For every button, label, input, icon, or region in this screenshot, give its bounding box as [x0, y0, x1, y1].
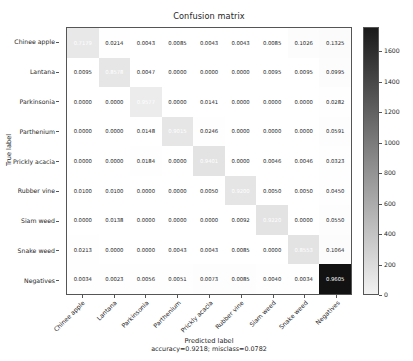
heatmap-axes: 0.71790.02140.00430.00850.00430.00430.00…: [66, 27, 352, 295]
page-title: Confusion matrix: [66, 11, 352, 21]
heatmap-cell-value: 0.0000: [231, 158, 249, 164]
heatmap-cell: 0.0000: [288, 87, 320, 117]
heatmap-cell: 0.0000: [67, 146, 99, 176]
x-tick-label: Snake weed: [277, 299, 308, 330]
colorbar-tick-label: 200: [384, 261, 396, 268]
colorbar-gradient: [363, 27, 379, 295]
heatmap-cell-value: 0.0000: [168, 217, 186, 223]
heatmap-cell-value: 0.0000: [200, 69, 218, 75]
heatmap-cell: 0.0085: [225, 264, 257, 294]
x-tick-label: Parkinsonia: [120, 299, 150, 329]
heatmap-cell-value: 0.9200: [231, 188, 249, 194]
heatmap-cell-value: 0.0073: [200, 276, 218, 282]
colorbar-tick-label: 400: [384, 230, 396, 237]
heatmap-cell: 0.0184: [130, 146, 162, 176]
heatmap-cell: 0.9220: [256, 205, 288, 235]
heatmap-cell-value: 0.0043: [231, 40, 249, 46]
heatmap-cell-value: 0.0000: [105, 128, 123, 134]
heatmap-cell-value: 0.0100: [74, 188, 92, 194]
heatmap-cell-value: 0.0085: [168, 40, 186, 46]
heatmap-cell: 0.7179: [67, 28, 99, 58]
heatmap-cell-value: 0.7179: [74, 40, 92, 46]
heatmap-cell: 0.0214: [99, 28, 131, 58]
heatmap-cell: 0.0092: [225, 205, 257, 235]
heatmap-cell-value: 0.1064: [326, 247, 344, 253]
heatmap-cell: 0.0051: [162, 264, 194, 294]
heatmap-cell-value: 0.9220: [263, 217, 281, 223]
heatmap-cell-value: 0.0043: [168, 247, 186, 253]
heatmap-cell: 0.0040: [256, 264, 288, 294]
heatmap-cell: 0.0095: [67, 58, 99, 88]
heatmap-cell-value: 0.0043: [200, 40, 218, 46]
colorbar-tick-mark: [379, 295, 382, 296]
heatmap-cell-value: 0.0000: [168, 69, 186, 75]
heatmap-cell-value: 0.8553: [295, 247, 313, 253]
heatmap-cell-value: 0.0040: [263, 276, 281, 282]
heatmap-cell: 0.0000: [67, 205, 99, 235]
x-tick-label: Siam weed: [248, 299, 277, 328]
heatmap-cell: 0.0095: [256, 58, 288, 88]
heatmap-cell-value: 0.0000: [74, 217, 92, 223]
heatmap-cell-value: 0.0056: [137, 276, 155, 282]
heatmap-cell: 0.0046: [256, 146, 288, 176]
heatmap-cell: 0.0023: [99, 264, 131, 294]
heatmap-cell-value: 0.0000: [263, 128, 281, 134]
colorbar-tick-label: 1200: [384, 109, 400, 116]
heatmap-cell-value: 0.0550: [326, 217, 344, 223]
heatmap-cell: 0.0000: [99, 117, 131, 147]
heatmap-cell-value: 0.0000: [295, 217, 313, 223]
x-tick-mark: [114, 295, 115, 298]
heatmap-cell-value: 0.0213: [74, 247, 92, 253]
y-tick-mark: [56, 191, 59, 192]
heatmap-cell-value: 0.1026: [295, 40, 313, 46]
heatmap-cell: 0.9577: [130, 87, 162, 117]
x-tick-mark: [145, 295, 146, 298]
heatmap-cell-value: 0.0034: [295, 276, 313, 282]
heatmap-cell-value: 0.0000: [137, 217, 155, 223]
heatmap-cell: 0.0050: [256, 176, 288, 206]
heatmap-cell: 0.0000: [225, 146, 257, 176]
heatmap-cell: 0.0085: [256, 28, 288, 58]
x-tick-mark: [177, 295, 178, 298]
heatmap-cell-value: 0.0085: [263, 40, 281, 46]
heatmap-cell: 0.0000: [130, 205, 162, 235]
heatmap-cell: 0.0043: [193, 28, 225, 58]
x-tick-mark: [336, 295, 337, 298]
heatmap-cell-value: 0.9015: [168, 128, 186, 134]
colorbar-tick-mark: [379, 51, 382, 52]
y-tick-mark: [56, 131, 59, 132]
x-tick-label: Rubber vine: [214, 299, 245, 330]
heatmap-cell: 0.0000: [162, 58, 194, 88]
heatmap-cell-value: 0.0000: [105, 158, 123, 164]
heatmap-cell-value: 0.0000: [231, 69, 249, 75]
heatmap-cell-value: 0.0085: [231, 276, 249, 282]
heatmap-cell: 0.0050: [193, 176, 225, 206]
heatmap-cell: 0.8553: [288, 235, 320, 265]
heatmap-cell-value: 0.0138: [105, 217, 123, 223]
heatmap-cell: 0.0085: [225, 235, 257, 265]
heatmap-cell-value: 0.0184: [137, 158, 155, 164]
heatmap-cell: 0.0323: [319, 146, 351, 176]
heatmap-cell: 0.0043: [225, 28, 257, 58]
heatmap-cell: 0.0141: [193, 87, 225, 117]
heatmap-cell-value: 0.0000: [200, 217, 218, 223]
heatmap-cell: 0.0073: [193, 264, 225, 294]
heatmap-cell: 0.0000: [99, 87, 131, 117]
heatmap-cell-value: 0.0000: [74, 99, 92, 105]
heatmap-cell-value: 0.9605: [326, 276, 344, 282]
heatmap-cell: 0.0995: [319, 58, 351, 88]
heatmap-cell-value: 0.1325: [326, 40, 344, 46]
colorbar-tick-mark: [379, 82, 382, 83]
heatmap-cell: 0.0000: [130, 235, 162, 265]
heatmap-cell: 0.0000: [162, 146, 194, 176]
heatmap-cell-value: 0.0000: [74, 128, 92, 134]
heatmap-cell-value: 0.0000: [295, 99, 313, 105]
heatmap-cell-value: 0.0000: [295, 128, 313, 134]
y-tick-mark: [56, 42, 59, 43]
x-tick-label: Prickly acacia: [179, 299, 214, 334]
colorbar-tick-mark: [379, 265, 382, 266]
heatmap-cell: 0.9200: [225, 176, 257, 206]
heatmap-cell: 0.0000: [288, 205, 320, 235]
heatmap-cell-value: 0.0095: [263, 69, 281, 75]
heatmap-cell-value: 0.0085: [231, 247, 249, 253]
